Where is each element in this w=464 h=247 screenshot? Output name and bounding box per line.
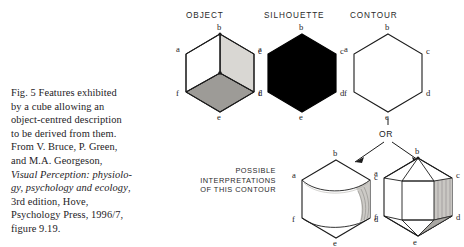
vertex-label-a: a (176, 44, 180, 54)
caption-line-title: Visual Perception: physiolo- (11, 169, 132, 180)
vertex-dot-g (218, 71, 222, 75)
column-header-silhouette: SILHOUETTE (264, 11, 324, 20)
vertex-label-f: f (176, 88, 179, 98)
vertex-label-b: b (299, 22, 303, 32)
figure-diagram: OBJECT SILHOUETTE CONTOUR a b c d e f (160, 0, 458, 247)
caption-line: object-centred description (11, 114, 122, 125)
vertex-label-e: e (217, 112, 221, 122)
vertex-label-a: a (374, 168, 378, 178)
vertex-label-a: a (258, 44, 262, 54)
vertex-dot-b (416, 156, 419, 159)
column-header-object: OBJECT (186, 11, 224, 20)
silhouette-panel: a b c d e f (256, 26, 348, 120)
vertex-label-d: d (456, 212, 461, 222)
interpretations-label: POSSIBLE INTERPRETATIONS OF THIS CONTOUR (172, 166, 276, 195)
interp2-front-face (402, 181, 434, 220)
caption-line: Psychology Press, 1996/7, (11, 209, 123, 220)
object-cube-panel: a b c d e f (174, 26, 266, 120)
column-header-contour: CONTOUR (350, 11, 398, 20)
vertex-label-e: e (413, 237, 417, 247)
caption-line: figure 9.19. (11, 223, 60, 234)
caption-line: Fig. 5 Features exhibited (11, 87, 117, 98)
caption-line: 3rd edition, Hove, (11, 196, 88, 207)
vertex-label-b: b (217, 22, 221, 32)
vertex-label-f: f (344, 88, 347, 98)
vertex-label-f: f (374, 212, 377, 222)
interp2-shaded-face (434, 178, 452, 220)
interpretations-label-line2: INTERPRETATIONS (172, 176, 276, 186)
caption-line-title: gy, psychology and ecology (11, 182, 128, 193)
interpretation-cylinder-panel: a b c d e f (290, 152, 382, 246)
or-label: OR (379, 129, 393, 139)
interpretations-label-line1: POSSIBLE (172, 166, 276, 176)
vertex-label-b: b (385, 22, 389, 32)
contour-panel: a b c d e f (342, 26, 434, 120)
contour-hexagon (354, 34, 422, 112)
interpretation-prism-panel: a b c d e f (372, 150, 464, 246)
vertex-label-a: a (344, 44, 348, 54)
vertex-label-d: d (426, 88, 431, 98)
caption-line: by a cube allowing an (11, 101, 104, 112)
caption-line: to be derived from them. (11, 128, 116, 139)
interpretations-label-line3: OF THIS CONTOUR (172, 185, 276, 195)
vertex-label-c: c (426, 46, 430, 56)
vertex-dot-b (219, 33, 222, 36)
caption-comma: , (128, 182, 131, 193)
vertex-label-f: f (258, 88, 261, 98)
vertex-label-a: a (292, 170, 296, 180)
vertex-label-b: b (333, 148, 337, 158)
interp1-hexagon (302, 160, 370, 238)
silhouette-hexagon (268, 34, 336, 112)
vertex-label-b: b (415, 146, 419, 156)
vertex-label-c: c (456, 170, 460, 180)
figure-caption: Fig. 5 Features exhibited by a cube allo… (11, 86, 143, 236)
vertex-label-e: e (333, 238, 337, 247)
vertex-label-e: e (299, 112, 303, 122)
caption-line: From V. Bruce, P. Green, (11, 141, 118, 152)
vertex-label-f: f (292, 214, 295, 224)
caption-line: and M.A. Georgeson, (11, 155, 102, 166)
